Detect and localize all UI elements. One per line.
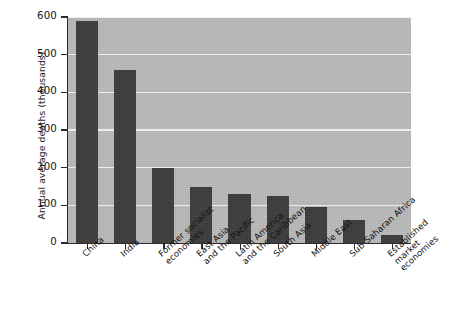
bar [76, 21, 98, 243]
y-tick-mark [61, 242, 67, 243]
plot-area [68, 17, 411, 243]
y-tick-label: 500 [37, 48, 57, 59]
y-tick-label: 200 [37, 161, 57, 172]
y-tick-mark [61, 16, 67, 17]
y-tick-label: 100 [37, 198, 57, 209]
y-tick-mark [61, 92, 67, 93]
bar [152, 168, 174, 243]
bar-chart-figure: Annual average deaths (thousands) 010020… [0, 0, 461, 330]
gridline [68, 17, 411, 18]
bar [114, 70, 136, 243]
y-tick-mark [61, 129, 67, 130]
y-tick-label: 0 [50, 236, 57, 247]
y-tick-label: 400 [37, 85, 57, 96]
y-tick-label: 300 [37, 123, 57, 134]
y-tick-mark [61, 167, 67, 168]
gridline [68, 54, 411, 56]
y-tick-label: 600 [37, 10, 57, 21]
y-tick-mark [61, 54, 67, 55]
y-tick-mark [61, 205, 67, 206]
y-axis-spine [67, 16, 68, 244]
